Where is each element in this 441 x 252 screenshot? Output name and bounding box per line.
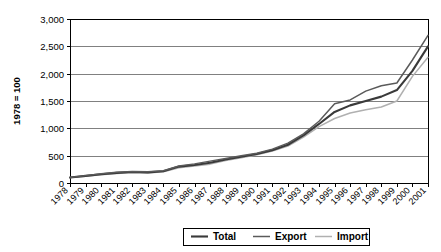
legend-label-import: Import bbox=[337, 231, 369, 242]
y-tick-label: 1,500 bbox=[40, 96, 64, 107]
y-tick-label: 1,000 bbox=[40, 123, 64, 134]
chart-legend: TotalExportImport bbox=[184, 229, 370, 246]
legend-label-total: Total bbox=[213, 231, 236, 242]
y-axis-tick-labels: 05001,0001,5002,0002,5003,000 bbox=[40, 14, 64, 189]
x-tick-label: 1982 bbox=[111, 185, 132, 206]
chart-container: 05001,0001,5002,0002,5003,000 1978197919… bbox=[0, 0, 441, 252]
y-axis-title-group: 1978 = 100 bbox=[11, 77, 22, 125]
y-axis-title: 1978 = 100 bbox=[11, 77, 22, 125]
y-tick-label: 3,000 bbox=[40, 14, 64, 25]
gridlines-group bbox=[67, 20, 428, 184]
x-tick-label: 1994 bbox=[298, 185, 319, 206]
x-tick-label: 1998 bbox=[360, 185, 381, 206]
series-line-import bbox=[70, 57, 428, 177]
y-tick-label: 2,000 bbox=[40, 69, 64, 80]
x-tick-label: 1980 bbox=[80, 185, 101, 206]
y-tick-label: 2,500 bbox=[40, 41, 64, 52]
y-tick-label: 500 bbox=[48, 151, 64, 162]
x-tick-label: 1978 bbox=[49, 185, 70, 206]
x-tick-label: 1984 bbox=[142, 185, 163, 206]
x-tick-label: 2000 bbox=[391, 185, 412, 206]
x-tick-label: 2001 bbox=[407, 185, 428, 206]
x-tick-label: 1987 bbox=[189, 185, 210, 206]
x-tick-label: 1996 bbox=[329, 185, 350, 206]
line-chart: 05001,0001,5002,0002,5003,000 1978197919… bbox=[0, 0, 441, 252]
x-tick-label: 1993 bbox=[282, 185, 303, 206]
x-axis-tick-labels: 1978197919801981198219831984198519861987… bbox=[49, 185, 428, 206]
x-tick-label: 1989 bbox=[220, 185, 241, 206]
series-line-total bbox=[70, 46, 428, 177]
x-tick-label: 1985 bbox=[158, 185, 179, 206]
legend-label-export: Export bbox=[275, 231, 307, 242]
x-tick-label: 1991 bbox=[251, 185, 272, 206]
